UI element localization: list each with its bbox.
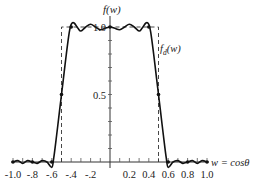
sample-point	[69, 25, 73, 29]
y-axis-label: f(w)	[103, 3, 121, 16]
x-tick-label: 0.6	[162, 169, 175, 180]
sample-point	[108, 25, 112, 29]
y-tick-label: 0.5	[93, 90, 106, 101]
sample-point	[60, 93, 64, 97]
sample-point	[147, 25, 151, 29]
x-tick-label: -.6	[46, 169, 57, 180]
x-tick-label: -.2	[85, 169, 96, 180]
tick-labels: -1.0-.8-.6-.4-.20.20.40.60.81.00.51.0	[5, 22, 214, 180]
sample-point	[50, 160, 54, 164]
sample-point	[166, 160, 170, 164]
x-axis-label: w = cosθ	[211, 157, 250, 168]
x-tick-label: -.4	[66, 169, 78, 180]
sample-point	[11, 160, 15, 164]
axes	[11, 16, 209, 168]
sample-point	[205, 160, 209, 164]
sample-point	[31, 160, 35, 164]
filter-response-plot: -1.0-.8-.6-.4-.20.20.40.60.81.00.51.0 f(…	[0, 0, 254, 185]
sample-point	[157, 93, 161, 97]
desired-response-label: fd(w)	[160, 43, 181, 57]
sample-point	[186, 160, 190, 164]
x-tick-label: -.8	[27, 169, 38, 180]
x-tick-label: 0.4	[142, 169, 156, 180]
y-tick-label: 1.0	[93, 22, 106, 33]
x-tick-label: 1.0	[200, 169, 213, 180]
x-tick-label: -1.0	[5, 169, 22, 180]
x-tick-label: 0.2	[123, 169, 136, 180]
x-tick-label: 0.8	[181, 169, 194, 180]
